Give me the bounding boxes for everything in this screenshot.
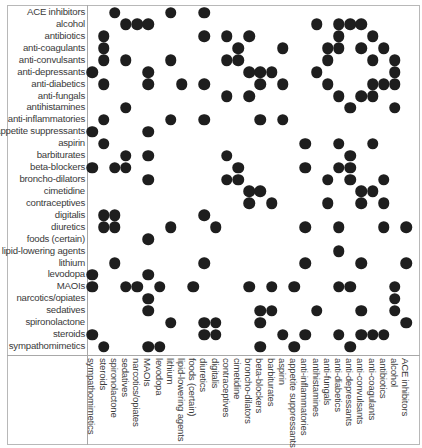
row-label: appetite suppressants (0, 125, 85, 137)
interaction-dot (143, 78, 155, 90)
interaction-dot (120, 162, 132, 174)
interaction-dot (98, 341, 110, 353)
interaction-dot (109, 162, 121, 174)
interaction-dot (300, 257, 312, 269)
interaction-dot (120, 19, 132, 31)
interaction-dot (322, 54, 334, 66)
column-label: beta-blockers (254, 358, 265, 413)
column-label: anti-coagulants (367, 358, 378, 420)
interaction-dot (288, 281, 300, 293)
row-label: anti-diabetics (31, 78, 85, 90)
interaction-dot (389, 54, 401, 66)
column-label: ACE inhibitors (400, 358, 411, 416)
interaction-dot (143, 150, 155, 162)
interaction-dot (300, 162, 312, 174)
column-label: MAOIs (142, 358, 153, 386)
interaction-dot (367, 54, 379, 66)
interaction-dot (344, 162, 356, 174)
interaction-dot (367, 78, 379, 90)
interaction-dot (131, 19, 143, 31)
row-label: broncho-dilators (19, 173, 85, 185)
interaction-dot (400, 221, 412, 233)
interaction-dot (311, 66, 323, 78)
column-label: spironolactone (109, 358, 120, 418)
row-label: spironolactone (25, 316, 85, 328)
interaction-dot (221, 90, 233, 102)
interaction-dot (221, 174, 233, 186)
interaction-dot (400, 317, 412, 329)
interaction-dot (87, 66, 99, 78)
interaction-dot (165, 7, 177, 19)
interaction-dot (322, 78, 334, 90)
interaction-dot (98, 31, 110, 43)
interaction-dot (277, 43, 289, 55)
interaction-dot (221, 54, 233, 66)
interaction-dot (199, 210, 211, 222)
interaction-dot (367, 31, 379, 43)
interaction-dot (232, 174, 244, 186)
interaction-dot (389, 66, 401, 78)
interaction-dot (199, 7, 211, 19)
interaction-dot (277, 78, 289, 90)
interaction-dot (367, 329, 379, 341)
interaction-dot (255, 66, 267, 78)
row-label: lipid-lowering agents (2, 245, 85, 257)
column-label: levodopa (154, 358, 165, 395)
row-label: anti-depressants (17, 66, 85, 78)
interaction-dot (199, 329, 211, 341)
row-label: MAOIs (57, 280, 85, 292)
interaction-dot (109, 7, 121, 19)
interaction-dot (165, 54, 177, 66)
interaction-dot (255, 78, 267, 90)
interaction-dot (176, 78, 188, 90)
interaction-dot (255, 317, 267, 329)
interaction-dot (154, 341, 166, 353)
interaction-dot (367, 186, 379, 198)
interaction-dot (333, 245, 345, 257)
interaction-dot (143, 126, 155, 138)
interaction-dot (356, 257, 368, 269)
interaction-dot (255, 341, 267, 353)
interaction-dot (356, 19, 368, 31)
interaction-dot (243, 31, 255, 43)
row-label: barbiturates (37, 149, 85, 161)
interaction-dot (378, 174, 390, 186)
interaction-dot (378, 78, 390, 90)
interaction-dot (277, 329, 289, 341)
column-label: anti-diabetics (333, 358, 344, 412)
horizontal-divider (7, 355, 420, 356)
interaction-dot (255, 114, 267, 126)
interaction-dot (356, 90, 368, 102)
interaction-dot (232, 162, 244, 174)
column-label: anti-depressants (344, 358, 355, 426)
interaction-dot (210, 317, 222, 329)
interaction-dot (356, 186, 368, 198)
row-label: ACE inhibitors (27, 6, 85, 18)
column-label: alcohol (389, 358, 400, 387)
interaction-dot (367, 90, 379, 102)
interaction-dot (322, 174, 334, 186)
row-label: anti-coagulants (23, 42, 85, 54)
column-label: antibiotics (378, 358, 389, 398)
interaction-dot (199, 257, 211, 269)
column-label: antihistamines (311, 358, 322, 417)
interaction-dot (389, 102, 401, 114)
column-label: contraceptives (221, 358, 232, 417)
interaction-dot (333, 221, 345, 233)
interaction-dot (165, 221, 177, 233)
interaction-dot (277, 114, 289, 126)
column-label: lipid-lowering agents (176, 358, 187, 441)
row-label: digitalis (55, 209, 85, 221)
interaction-dot (187, 281, 199, 293)
interaction-dot (143, 305, 155, 317)
interaction-dot (356, 305, 368, 317)
interaction-dot (322, 43, 334, 55)
interaction-dot (109, 210, 121, 222)
interaction-dot (154, 281, 166, 293)
interaction-dot (143, 341, 155, 353)
interaction-dot (143, 293, 155, 305)
interaction-dot (333, 162, 345, 174)
interaction-dot (378, 329, 390, 341)
interaction-dot (87, 126, 99, 138)
interaction-dot (243, 66, 255, 78)
